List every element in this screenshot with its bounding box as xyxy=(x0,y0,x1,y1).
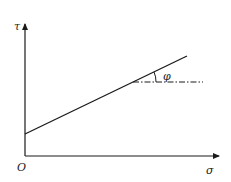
angle-arc xyxy=(154,72,156,82)
envelope-line xyxy=(25,56,187,134)
origin-label: O xyxy=(17,161,26,174)
y-axis-label: τ xyxy=(14,20,21,33)
x-axis-label: σ xyxy=(206,164,214,177)
diagram-canvas: τ σ O φ xyxy=(0,0,231,182)
angle-label: φ xyxy=(163,70,171,83)
